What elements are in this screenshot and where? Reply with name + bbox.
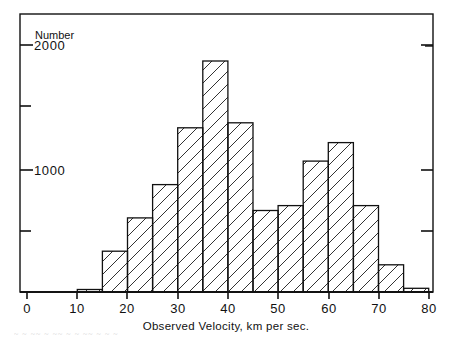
x-tick-label-20: 20 (119, 301, 134, 316)
figure-caption-cutoff: ~ ~ ~~ ~ ~~ ~ ~ ~~ ~ ~ ~ (14, 330, 434, 340)
y-tick-label-1000: 1000 (34, 163, 65, 178)
y-axis-ticks-right (421, 45, 433, 231)
bar-60-65 (328, 143, 353, 292)
bar-35-40 (203, 61, 228, 292)
bar-30-35 (178, 128, 203, 292)
bar-45-50 (253, 211, 278, 293)
histogram-bars (77, 61, 428, 292)
bar-55-60 (303, 161, 328, 292)
velocity-histogram-chart: Number 2000 1000 0 10 20 30 40 5 (0, 0, 449, 340)
x-tick-label-70: 70 (371, 301, 386, 316)
y-tick-label-2000: 2000 (34, 38, 65, 53)
x-tick-label-0: 0 (23, 301, 31, 316)
bar-65-70 (353, 206, 378, 292)
x-tick-label-80: 80 (421, 301, 436, 316)
x-tick-label-30: 30 (170, 301, 185, 316)
x-tick-label-50: 50 (270, 301, 285, 316)
bar-15-20 (102, 251, 127, 292)
y-axis-ticks (20, 45, 33, 231)
x-axis-tick-labels: 0 10 20 30 40 50 60 70 80 (23, 301, 437, 316)
x-axis-ticks (27, 292, 429, 299)
x-tick-label-40: 40 (220, 301, 235, 316)
histogram-figure: Number 2000 1000 0 10 20 30 40 5 (0, 0, 449, 340)
bar-25-30 (153, 185, 178, 292)
bar-50-55 (278, 206, 303, 292)
x-tick-label-10: 10 (69, 301, 84, 316)
bar-70-75 (379, 265, 404, 292)
x-tick-label-60: 60 (321, 301, 336, 316)
bar-20-25 (128, 218, 153, 292)
bar-40-45 (228, 123, 253, 292)
